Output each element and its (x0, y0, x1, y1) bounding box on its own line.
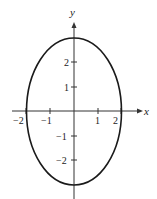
y-axis-arrow-icon (72, 22, 77, 28)
y-tick-label: −2 (56, 155, 67, 166)
x-axis-arrow-icon (137, 109, 143, 114)
y-tick-label: 1 (64, 82, 69, 93)
x-tick-label: 2 (113, 115, 118, 126)
x-tick-label: 1 (95, 115, 100, 126)
y-axis-label: y (69, 6, 75, 18)
x-tick-label: −2 (13, 115, 24, 126)
x-axis-label: x (143, 105, 149, 117)
y-tick-label: −1 (56, 131, 67, 142)
y-tick-label: 2 (64, 57, 69, 68)
x-tick-label: −1 (41, 115, 52, 126)
ellipse-plot: x y −2 −1 1 2 2 1 −1 −2 (0, 0, 157, 199)
